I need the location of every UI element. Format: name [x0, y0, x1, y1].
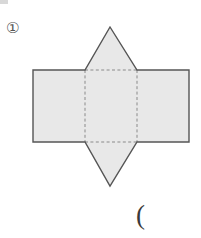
geometry-net-figure: [0, 0, 201, 238]
bottom-face-triangle: [85, 142, 137, 186]
left-face-rectangle: [33, 70, 85, 142]
right-face-rectangle: [137, 70, 189, 142]
top-face-triangle: [85, 27, 137, 70]
figure-screenshot: ① (: [0, 0, 201, 238]
answer-open-parenthesis: (: [136, 202, 145, 229]
center-face-square: [85, 70, 137, 142]
net-faces: [33, 27, 189, 186]
